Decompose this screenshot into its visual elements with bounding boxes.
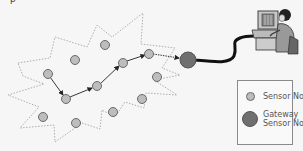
legend-item-sensor-node: Sensor Node (246, 92, 303, 101)
sensor-node (44, 70, 53, 79)
legend-label-line1: Gateway (263, 110, 303, 119)
legend-item-gateway-node: Gateway Sensor Node (242, 110, 303, 128)
sensor-node-swatch (246, 92, 255, 101)
sensor-node (119, 59, 128, 68)
sensor-network-diagram: p (0, 0, 303, 151)
sensor-node (145, 50, 154, 59)
sensor-node (39, 113, 48, 122)
sensor-node (109, 108, 118, 117)
legend-label-line2: Sensor Node (263, 119, 303, 128)
legend-label: Sensor Node (263, 92, 303, 101)
legend: Sensor Node Gateway Sensor Node (237, 80, 293, 145)
sensor-node (138, 95, 147, 104)
gateway-node-swatch (242, 111, 258, 127)
sensor-node (93, 82, 102, 91)
sensor-node (71, 56, 80, 65)
sensor-node (72, 119, 81, 128)
sensor-node (62, 95, 71, 104)
legend-label-group: Gateway Sensor Node (263, 110, 303, 128)
sensor-node (153, 73, 162, 82)
workstation-icon (252, 9, 298, 54)
cut-off-text: p (10, 0, 16, 4)
sensor-node (101, 41, 110, 50)
gateway-node (180, 52, 196, 68)
sensor-nodes (39, 41, 162, 128)
